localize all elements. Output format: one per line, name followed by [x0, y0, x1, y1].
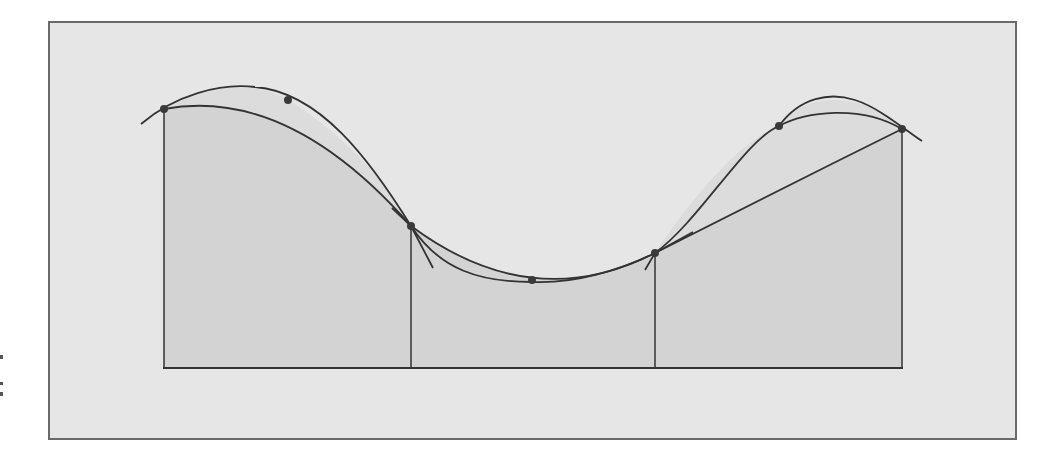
sample-point	[528, 276, 536, 284]
sample-point	[160, 105, 168, 113]
simpsons-rule-diagram	[0, 0, 1051, 465]
sample-point	[775, 122, 783, 130]
sample-point	[407, 222, 415, 230]
sample-point	[898, 125, 906, 133]
sample-point	[651, 249, 659, 257]
sample-point	[284, 96, 292, 104]
